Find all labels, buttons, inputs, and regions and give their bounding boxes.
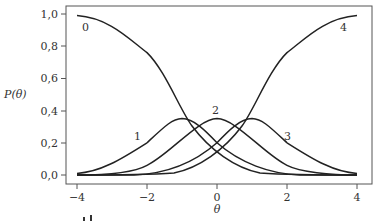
y-tick-label: 0,2 — [41, 137, 59, 150]
x-tick-label: 4 — [354, 191, 361, 204]
y-axis — [61, 14, 66, 175]
curves — [77, 16, 357, 175]
x-tick-label: −4 — [69, 191, 85, 204]
x-tick-label: −2 — [139, 191, 155, 204]
y-tick-label: 0,0 — [41, 169, 59, 182]
x-tick-label: 2 — [284, 191, 291, 204]
y-tick-label: 0,6 — [41, 72, 59, 85]
curve-3 — [77, 119, 357, 175]
curve-label-0: 0 — [82, 21, 89, 34]
curve-label-4: 4 — [340, 21, 347, 34]
curve-label-2: 2 — [212, 104, 219, 117]
curve-label-3: 3 — [284, 130, 291, 143]
chart-canvas: 1,0 0,8 0,6 0,4 0,2 0,0 −4 −2 0 2 4 θ P(… — [0, 0, 374, 221]
curve-1 — [77, 119, 357, 175]
y-tick-label: 1,0 — [41, 8, 59, 21]
y-tick-label: 0,8 — [41, 40, 59, 53]
x-axis-title: θ — [214, 203, 221, 216]
curve-4 — [77, 16, 357, 175]
cropped-glyph-fragment — [83, 215, 92, 221]
curve-2 — [77, 119, 357, 175]
curve-label-1: 1 — [134, 130, 141, 143]
x-axis — [77, 184, 357, 189]
y-tick-label: 0,4 — [41, 105, 59, 118]
y-axis-title: P(θ) — [3, 88, 27, 101]
plot-frame — [66, 6, 372, 184]
